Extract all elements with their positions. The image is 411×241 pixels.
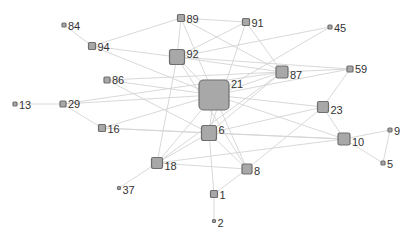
node-18[interactable]: 18 <box>152 158 177 172</box>
node-square[interactable] <box>13 102 17 106</box>
node-label: 23 <box>331 104 343 116</box>
node-59[interactable]: 59 <box>347 63 367 75</box>
node-label: 5 <box>387 158 393 170</box>
node-91[interactable]: 91 <box>243 17 264 29</box>
node-37[interactable]: 37 <box>118 184 135 196</box>
node-label: 87 <box>290 69 302 81</box>
node-84[interactable]: 84 <box>62 20 80 32</box>
node-label: 91 <box>252 17 264 29</box>
node-1[interactable]: 1 <box>211 189 226 201</box>
node-23[interactable]: 23 <box>318 102 343 116</box>
node-label: 94 <box>98 41 110 53</box>
node-square[interactable] <box>211 191 218 198</box>
node-square[interactable] <box>318 102 329 113</box>
network-graph: 8494899145928759862113292316610918853712 <box>0 0 411 241</box>
node-label: 9 <box>394 125 400 137</box>
edge-23-6 <box>209 107 323 133</box>
node-87[interactable]: 87 <box>276 66 302 81</box>
node-label: 29 <box>68 98 80 110</box>
node-label: 89 <box>187 13 199 25</box>
node-label: 21 <box>231 78 243 90</box>
node-92[interactable]: 92 <box>170 48 199 65</box>
node-label: 10 <box>352 136 364 148</box>
node-13[interactable]: 13 <box>13 99 31 111</box>
node-square[interactable] <box>243 19 250 26</box>
node-square[interactable] <box>62 23 66 27</box>
node-6[interactable]: 6 <box>202 124 225 141</box>
node-square[interactable] <box>118 187 121 190</box>
node-square[interactable] <box>152 158 163 169</box>
edge-45-92 <box>177 27 330 57</box>
node-45[interactable]: 45 <box>328 22 346 34</box>
node-10[interactable]: 10 <box>338 133 364 148</box>
node-label: 92 <box>187 48 199 60</box>
edges-layer <box>15 18 390 221</box>
node-label: 1 <box>220 189 226 201</box>
node-square[interactable] <box>199 80 229 110</box>
node-square[interactable] <box>381 161 385 165</box>
node-square[interactable] <box>338 133 350 145</box>
node-square[interactable] <box>328 25 332 29</box>
node-label: 37 <box>123 184 135 196</box>
edge-91-87 <box>246 22 282 72</box>
node-8[interactable]: 8 <box>242 164 260 177</box>
node-label: 18 <box>165 160 177 172</box>
node-9[interactable]: 9 <box>388 125 400 137</box>
node-square[interactable] <box>89 43 96 50</box>
node-square[interactable] <box>242 164 252 174</box>
node-square[interactable] <box>104 77 110 83</box>
node-label: 45 <box>334 22 346 34</box>
node-square[interactable] <box>178 15 185 22</box>
node-square[interactable] <box>202 126 217 141</box>
node-label: 13 <box>19 99 31 111</box>
node-label: 59 <box>355 63 367 75</box>
edge-6-10 <box>209 133 344 139</box>
node-label: 8 <box>254 165 260 177</box>
node-label: 6 <box>219 124 225 136</box>
node-square[interactable] <box>99 125 106 132</box>
node-square[interactable] <box>170 50 185 65</box>
node-29[interactable]: 29 <box>60 98 80 110</box>
edge-92-59 <box>177 57 350 69</box>
nodes-layer: 8494899145928759862113292316610918853712 <box>13 13 400 229</box>
node-94[interactable]: 94 <box>89 41 110 53</box>
node-label: 16 <box>108 123 120 135</box>
node-square[interactable] <box>276 66 288 78</box>
node-86[interactable]: 86 <box>104 74 124 86</box>
node-label: 2 <box>218 217 224 229</box>
node-16[interactable]: 16 <box>99 123 120 135</box>
node-square[interactable] <box>60 101 66 107</box>
edge-86-6 <box>107 80 209 133</box>
edge-10-9 <box>344 130 390 139</box>
node-5[interactable]: 5 <box>381 158 393 170</box>
node-label: 84 <box>68 20 80 32</box>
node-square[interactable] <box>213 220 216 223</box>
node-label: 86 <box>112 74 124 86</box>
node-square[interactable] <box>388 128 392 132</box>
node-square[interactable] <box>347 66 353 72</box>
edge-6-1 <box>209 133 214 194</box>
